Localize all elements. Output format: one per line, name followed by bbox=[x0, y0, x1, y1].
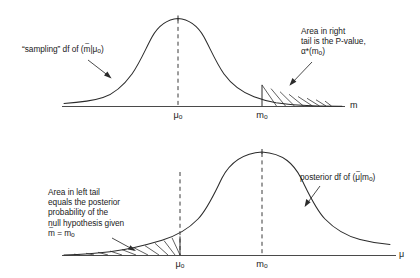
top-right-caption-leader bbox=[289, 62, 312, 86]
bottom-tick-label-m0: mo bbox=[246, 259, 278, 269]
bottom-axis-label: μ bbox=[399, 249, 404, 259]
top-m-symbol: m bbox=[256, 110, 264, 120]
posterior-label-end: ) bbox=[373, 172, 376, 182]
m-tilde-symbol-bottom: ~m bbox=[48, 228, 55, 238]
p-value-line-2: tail is the P-value, bbox=[301, 36, 366, 46]
posterior-note-line-4: null hypothesis given bbox=[48, 218, 124, 228]
top-tick-label-mu0: μo bbox=[162, 110, 194, 120]
posterior-label-mid: |m bbox=[360, 172, 369, 182]
sampling-curve-label: “sampling” df of (~m|μo) bbox=[22, 44, 104, 57]
statistical-figure: “sampling” df of (~m|μo) Area in rightta… bbox=[0, 0, 420, 278]
posterior-curve-label: posterior df of (~μ|mo) bbox=[300, 172, 375, 185]
top-axis-label: m bbox=[350, 100, 358, 110]
top-right-tail-hatching bbox=[262, 85, 332, 106]
posterior-probability-annotation: Area in left tailequals the posteriorpro… bbox=[48, 187, 124, 240]
top-mu-subscript: o bbox=[179, 113, 183, 120]
m-variable: m bbox=[84, 44, 91, 54]
posterior-note-line-2: equals the posterior bbox=[48, 197, 120, 207]
bottom-mu-subscript: o bbox=[181, 262, 185, 269]
sampling-label-end: ) bbox=[101, 44, 104, 54]
posterior-note-line-5-rest: = m bbox=[55, 228, 71, 238]
posterior-label-prefix: posterior df of ( bbox=[300, 172, 355, 182]
top-m-subscript: o bbox=[264, 113, 268, 120]
p-value-annotation: Area in righttail is the P-value,α*(mo) bbox=[301, 26, 366, 59]
mu-variable: μ bbox=[355, 172, 360, 182]
p-value-line-3-suffix: ) bbox=[322, 46, 325, 56]
sampling-label-prefix: “sampling” df of ( bbox=[22, 44, 84, 54]
top-left-caption-leader bbox=[88, 60, 112, 78]
m-tilde-symbol: ~m bbox=[84, 44, 91, 54]
bottom-tick-label-mu0: μo bbox=[164, 259, 196, 269]
top-tick-label-m0: mo bbox=[246, 110, 278, 120]
mu-tilde-symbol: ~μ bbox=[355, 172, 360, 182]
bottom-m-subscript: o bbox=[264, 262, 268, 269]
posterior-note-line-5-subscript: o bbox=[71, 231, 75, 238]
bottom-m-symbol: m bbox=[256, 259, 264, 269]
posterior-note-line-3: probability of the bbox=[48, 207, 108, 217]
posterior-note-line-1: Area in left tail bbox=[48, 187, 100, 197]
p-value-line-1: Area in right bbox=[301, 26, 345, 36]
p-value-line-3-prefix: α*(m bbox=[301, 46, 319, 56]
posterior-note-line-5-var: m bbox=[48, 228, 55, 238]
